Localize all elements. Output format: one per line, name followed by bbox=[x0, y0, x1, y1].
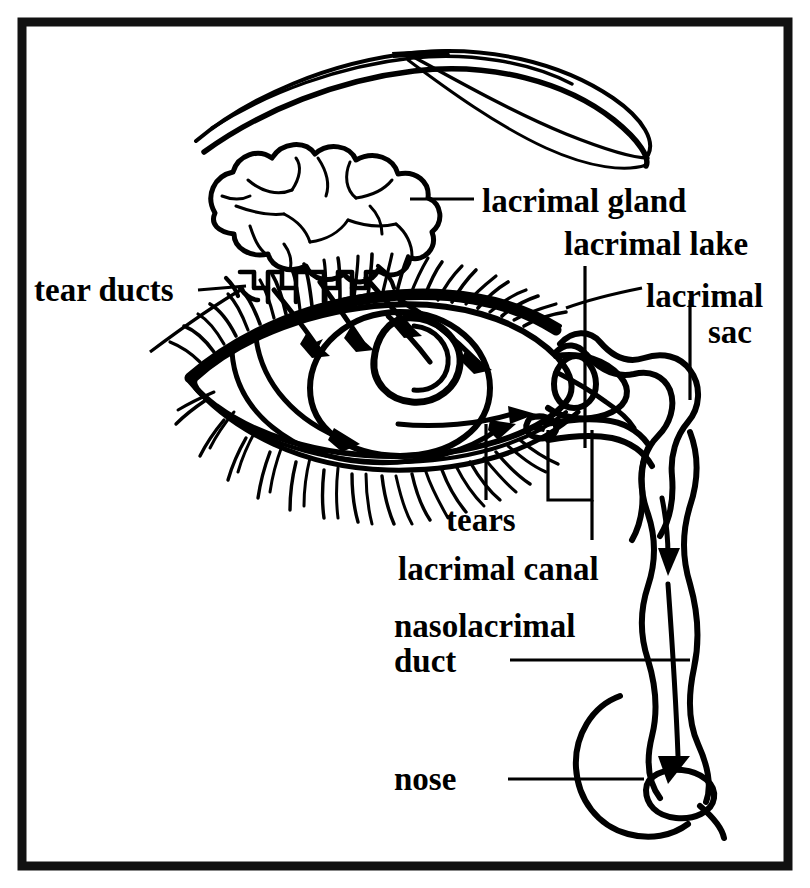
leader-lacrimal-lake bbox=[566, 288, 642, 308]
label-lacrimal-sac-line2: sac bbox=[708, 314, 752, 350]
label-tears: tears bbox=[446, 502, 516, 538]
leader-lines bbox=[150, 199, 690, 779]
lacrimal-apparatus-diagram: lacrimal gland lacrimal lake lacrimal sa… bbox=[0, 0, 810, 888]
label-lacrimal-lake: lacrimal lake bbox=[564, 226, 748, 262]
label-nose: nose bbox=[394, 761, 456, 797]
label-tear-ducts: tear ducts bbox=[34, 272, 174, 308]
label-lacrimal-gland: lacrimal gland bbox=[482, 183, 686, 219]
label-nasolacrimal-duct-line1: nasolacrimal bbox=[394, 608, 575, 644]
diagram-page: lacrimal gland lacrimal lake lacrimal sa… bbox=[0, 0, 810, 888]
label-lacrimal-sac-line1: lacrimal bbox=[646, 278, 763, 314]
nasolacrimal-duct bbox=[641, 432, 714, 818]
label-lacrimal-canal: lacrimal canal bbox=[398, 551, 599, 587]
label-nasolacrimal-duct-line2: duct bbox=[394, 643, 456, 679]
eyebrow bbox=[196, 49, 650, 168]
lacrimal-canal bbox=[546, 372, 652, 466]
